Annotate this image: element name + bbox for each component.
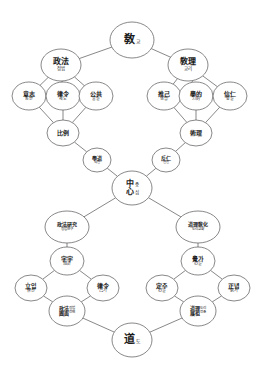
edge-gyeokga-jeongju xyxy=(174,270,186,279)
node-hakmun-ryeok-shape[interactable] xyxy=(179,82,213,110)
node-jeongbeop-yeongu-shape[interactable] xyxy=(45,211,89,243)
node-dori-gyohwa-shape[interactable] xyxy=(176,211,220,243)
edge-dorijeonjo-do xyxy=(150,318,182,332)
root-node-gyo-shape[interactable] xyxy=(110,22,154,58)
node-dori-jeonjo-shape[interactable] xyxy=(180,296,216,326)
center-node-jungsim-shape[interactable] xyxy=(112,171,152,205)
root-node-do-shape[interactable] xyxy=(112,323,152,357)
edge-yulryeonggigi-jeongbeopjeonmyeon xyxy=(81,296,90,302)
edge-jeongju-dorijeonjo xyxy=(175,296,184,302)
diagram-edge-layer xyxy=(0,0,265,379)
edge-jeongbeop-gonggong xyxy=(74,77,84,86)
edge-gyo-gyori xyxy=(151,49,170,58)
concept-diagram: 敎교政法정법敎理교리意志동안律令제도公共물질推己행법學的力的信仁충밀比例術理學道… xyxy=(0,0,265,379)
edge-uiji-bigyo xyxy=(39,107,53,122)
edge-chueo-sulli xyxy=(174,107,187,122)
node-ipip-susin-shape[interactable] xyxy=(15,275,47,301)
node-sulli-shape[interactable] xyxy=(180,120,212,146)
edge-hakdo-jungsim xyxy=(107,168,117,176)
edge-sinsin-sulli xyxy=(206,107,220,122)
node-uiji-dongan-shape[interactable] xyxy=(12,82,46,110)
node-hakdo-inin-shape[interactable] xyxy=(83,148,111,172)
node-jasu-gyugye-shape[interactable] xyxy=(50,247,84,275)
node-jeongbeop-shape[interactable] xyxy=(41,49,81,81)
node-jeongju-simil-shape[interactable] xyxy=(146,275,178,301)
edge-jungsim-jeongbeopyeongu xyxy=(84,198,116,217)
edge-gyo-jeongbeop xyxy=(79,47,111,58)
edge-bigyo-hakdo xyxy=(74,142,86,152)
edge-gonggong-bigyo xyxy=(72,107,86,122)
edge-gyori-chueo xyxy=(173,79,177,85)
edge-jeongnyeom-dorijeonjo xyxy=(212,296,221,302)
node-gonggong-muljil-shape[interactable] xyxy=(79,82,113,110)
edge-banin-jungsim xyxy=(146,168,156,176)
node-yulryeong-gigi-shape[interactable] xyxy=(87,275,119,301)
node-jeongnyeom-gigi-shape[interactable] xyxy=(218,275,250,301)
node-bigyo-shape[interactable] xyxy=(47,120,79,146)
edge-gyeokga-jeongnyeom xyxy=(211,270,223,279)
node-sinsin-jungmil-shape[interactable] xyxy=(213,82,247,110)
node-jeongbeop-jeonmyeon-shape[interactable] xyxy=(49,296,85,326)
edge-jeongbeop-uiji xyxy=(40,77,48,85)
edge-jasu-ipip xyxy=(43,270,55,279)
edge-jungsim-dorigyohwa xyxy=(148,198,181,217)
edge-ipip-jeongbeopjeonmyeon xyxy=(44,296,53,302)
edge-jeongbeopjeonmyeon-do xyxy=(83,318,114,332)
edge-sulli-banin xyxy=(176,143,186,152)
node-gyeokga-simil-shape[interactable] xyxy=(181,247,215,275)
node-banin-hyeonin-shape[interactable] xyxy=(152,148,180,172)
node-yulryeong-jedo-shape[interactable] xyxy=(46,82,80,110)
edge-jasu-yulryeonggigi xyxy=(80,270,92,279)
node-gyori-shape[interactable] xyxy=(168,49,208,81)
node-chueo-haengbeop-shape[interactable] xyxy=(147,82,181,110)
